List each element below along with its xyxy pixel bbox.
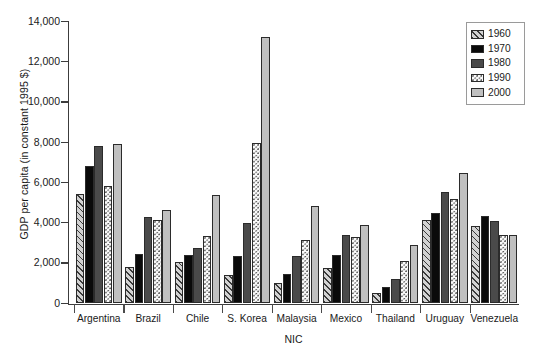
bar <box>203 236 212 302</box>
bar-group <box>125 21 171 303</box>
bar <box>184 255 193 302</box>
x-axis-category-label: Argentina <box>77 313 121 324</box>
plot-area: 02,0004,0006,0008,00010,00012,00014,000 … <box>68 21 519 305</box>
x-axis-category-label: Malaysia <box>276 313 316 324</box>
bar <box>85 166 94 303</box>
x-axis-category-label: Thailand <box>376 313 415 324</box>
y-axis-tick <box>61 262 68 263</box>
legend-swatch-icon <box>471 45 484 54</box>
legend-item[interactable]: 2000 <box>471 85 520 100</box>
bar <box>233 256 242 302</box>
bar-group <box>76 21 122 303</box>
bar <box>360 225 369 302</box>
chart-legend: 19601970198019902000 <box>466 22 525 105</box>
bar <box>76 194 85 303</box>
y-axis-tick-label: 10,000 <box>14 95 60 107</box>
bar <box>274 283 283 303</box>
y-axis-tick-label: 6,000 <box>14 176 60 188</box>
bar <box>400 261 409 302</box>
x-axis-separator <box>222 304 223 313</box>
x-axis-separator <box>74 304 75 313</box>
bar-group <box>175 21 221 303</box>
bar-group <box>422 21 468 303</box>
y-axis-tick <box>61 142 68 143</box>
bar <box>450 199 459 303</box>
legend-swatch-icon <box>471 74 484 83</box>
legend-label: 2000 <box>488 88 511 98</box>
bar <box>292 256 301 302</box>
bar <box>252 143 261 303</box>
x-axis-title: NIC <box>68 333 519 345</box>
bar <box>431 213 440 303</box>
legend-label: 1960 <box>488 29 511 39</box>
y-axis-tick <box>61 222 68 223</box>
legend-swatch-icon <box>471 30 484 39</box>
y-axis-title: GDP per capita (in constant 1995 $) <box>18 34 30 274</box>
bar <box>410 245 419 302</box>
x-axis-category-label: Venezuela <box>470 313 518 324</box>
bar <box>135 254 144 302</box>
bar-groups <box>68 21 519 304</box>
bar <box>441 192 450 303</box>
bar <box>301 240 310 302</box>
bar <box>162 210 171 303</box>
x-axis-category-label: S. Korea <box>227 313 267 324</box>
bar <box>224 275 233 302</box>
y-axis-tick-label: 14,000 <box>14 15 60 27</box>
x-axis-category-label: Brazil <box>135 313 160 324</box>
y-axis-tick-label: 2,000 <box>14 256 60 268</box>
x-axis-separator <box>123 304 124 313</box>
bar-group <box>274 21 320 303</box>
x-axis-category-label: Uruguay <box>426 313 465 324</box>
bar <box>175 262 184 302</box>
legend-item[interactable]: 1980 <box>471 56 520 71</box>
bar <box>509 235 518 302</box>
x-axis-separator <box>272 304 273 313</box>
legend-item[interactable]: 1970 <box>471 42 520 57</box>
bar <box>261 37 270 303</box>
bar <box>332 255 341 302</box>
y-axis-tick <box>61 21 68 22</box>
x-axis-category-label: Mexico <box>330 313 362 324</box>
bar <box>283 274 292 302</box>
x-axis-separator <box>173 304 174 313</box>
legend-label: 1980 <box>488 58 511 68</box>
bar <box>144 217 153 302</box>
x-axis-separator <box>321 304 322 313</box>
y-axis-tick <box>61 303 68 304</box>
bar <box>499 235 508 302</box>
bar <box>372 293 381 303</box>
x-axis-category-label: Chile <box>186 313 209 324</box>
y-axis-tick-label: 4,000 <box>14 216 60 228</box>
bar <box>342 235 351 302</box>
bar <box>193 248 202 302</box>
bar <box>212 195 221 303</box>
legend-swatch-icon <box>471 88 484 97</box>
x-axis-separator <box>420 304 421 313</box>
bar <box>125 267 134 302</box>
bar-group <box>372 21 418 303</box>
y-axis-tick <box>61 61 68 62</box>
bar <box>422 220 431 302</box>
legend-item[interactable]: 1960 <box>471 27 520 42</box>
legend-item[interactable]: 1990 <box>471 71 520 86</box>
bar <box>104 186 113 303</box>
y-axis-tick-label: 8,000 <box>14 136 60 148</box>
bar-group <box>323 21 369 303</box>
bar <box>94 146 103 303</box>
bar <box>351 237 360 302</box>
bar <box>481 216 490 302</box>
bar <box>311 206 320 303</box>
bar <box>243 223 252 302</box>
bar <box>323 268 332 302</box>
legend-label: 1990 <box>488 73 511 83</box>
bar <box>153 220 162 302</box>
legend-swatch-icon <box>471 59 484 68</box>
y-axis-tick <box>61 101 68 102</box>
bar <box>391 279 400 302</box>
bar-group <box>224 21 270 303</box>
y-axis-tick <box>61 182 68 183</box>
bar <box>490 221 499 302</box>
bar <box>471 226 480 302</box>
